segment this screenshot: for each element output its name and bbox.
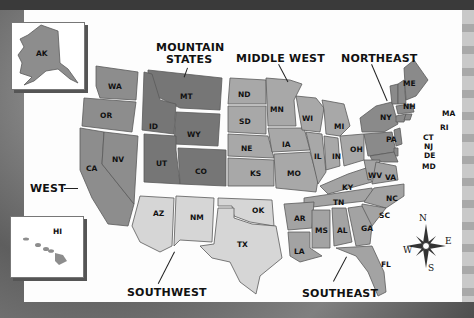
state-label-ma: MA [442,109,455,118]
state-label-ia: IA [282,140,291,149]
state-label-wa: WA [108,82,122,91]
state-label-az: AZ [153,209,164,218]
state-label-ms: MS [315,226,328,235]
state-label-md: MD [422,162,436,171]
state-label-wi: WI [302,114,313,123]
state-label-tn: TN [333,198,344,207]
region-label-west: WEST [30,182,66,195]
compass-w: W [403,245,412,255]
state-label-ct: CT [423,133,434,142]
state-label-va: VA [385,173,396,182]
state-label-mi: MI [334,122,344,131]
state-label-ri: RI [440,123,449,132]
state-label-ky: KY [342,183,353,192]
state-label-ar: AR [294,214,306,223]
state-label-ca: CA [86,164,97,173]
state-vt [390,84,398,104]
state-az [132,196,174,252]
state-label-sd: SD [239,117,251,126]
state-label-co: CO [195,167,207,176]
compass-s: S [428,263,434,273]
state-mn [266,78,302,126]
state-label-nm: NM [190,213,204,222]
region-label-northeast: NORTHEAST [341,52,418,65]
state-label-il: IL [314,152,322,161]
state-label-ga: GA [361,224,373,233]
state-label-sc: SC [379,211,390,220]
state-label-nh: NH [403,102,416,111]
state-label-al: AL [337,226,348,235]
state-label-nd: ND [238,90,251,99]
state-label-id: ID [149,122,158,131]
compass-n: N [419,213,427,223]
state-ny [360,102,398,132]
state-label-de: DE [424,151,435,160]
region-label-middle-west: MIDDLE WEST [236,52,325,65]
compass-e: E [445,236,452,246]
state-label-la: LA [294,247,305,256]
us-map [0,0,474,318]
state-label-fl: FL [381,260,391,269]
region-label-southwest: SOUTHWEST [127,286,207,299]
state-label-ne: NE [241,144,252,153]
state-label-oh: OH [350,145,363,154]
state-label-wv: WV [368,171,382,180]
state-label-mt: MT [180,92,193,101]
state-label-or: OR [100,111,112,120]
state-wy [174,112,220,146]
region-label-mountain-2: STATES [166,53,212,66]
state-label-mn: MN [270,105,284,114]
state-label-nj: NJ [424,142,433,151]
region-label-southeast: SOUTHEAST [302,287,378,300]
state-label-ut: UT [156,159,167,168]
state-label-nv: NV [112,155,124,164]
state-label-tx: TX [237,240,248,249]
leader-west [64,188,78,189]
state-nc [364,184,404,208]
state-label-wy: WY [187,130,201,139]
map-photo: AK HI [0,0,474,318]
state-label-ny: NY [380,113,392,122]
state-label-mo: MO [287,169,301,178]
state-label-pa: PA [386,135,397,144]
state-label-me: ME [403,79,416,88]
state-label-nc: NC [386,194,398,203]
state-label-ks: KS [250,169,261,178]
state-label-in: IN [332,152,341,161]
state-label-ok: OK [252,206,264,215]
